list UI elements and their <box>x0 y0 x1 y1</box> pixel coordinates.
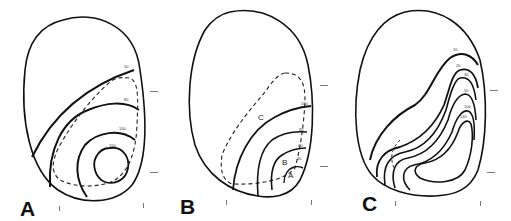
contour-label: 50 <box>464 88 469 93</box>
contour-label: 60 <box>298 143 303 148</box>
panel-a-diagram: 50 80 100 150 <box>0 0 170 221</box>
panel-letter: B <box>180 196 195 217</box>
panel-b: C B A 100 80 60 40 B <box>170 0 340 221</box>
tick-mark <box>487 172 495 173</box>
contour-label: 100 <box>301 101 308 106</box>
panel-c-diagram: 10 20 30 50 100 140 <box>340 0 511 221</box>
contour-label: 10 <box>453 47 458 52</box>
tick-mark <box>311 200 312 205</box>
panel-letter: A <box>20 198 35 219</box>
contour-label: 80 <box>124 97 129 102</box>
contour-label: 40 <box>297 156 302 161</box>
tick-mark <box>150 91 158 92</box>
tick-mark <box>480 201 481 206</box>
contour-label: 30 <box>464 72 469 77</box>
tick-mark <box>150 172 158 173</box>
panel-c: 10 20 30 50 100 140 C <box>340 0 511 221</box>
tick-mark <box>320 166 328 167</box>
contour-label: 50 <box>124 64 129 69</box>
contour-label: 140 <box>460 114 467 119</box>
panel-a: 50 80 100 150 A <box>0 0 170 221</box>
panel-b-diagram: C B A 100 80 60 40 <box>170 0 340 221</box>
contour-label: 100 <box>464 104 471 109</box>
contour-label: 150 <box>109 143 116 148</box>
tick-mark <box>59 206 60 211</box>
tick-mark <box>320 85 328 86</box>
panel-letter: C <box>362 193 377 214</box>
region-label: A <box>288 171 294 180</box>
tick-mark <box>226 200 227 205</box>
tick-mark <box>395 201 396 206</box>
region-label: C <box>258 113 264 122</box>
contour-label: 20 <box>456 63 461 68</box>
contour-label: 100 <box>119 126 126 131</box>
contour-label: 80 <box>299 127 304 132</box>
tick-mark <box>490 90 498 91</box>
region-label: B <box>282 158 287 167</box>
tick-mark <box>143 203 144 208</box>
